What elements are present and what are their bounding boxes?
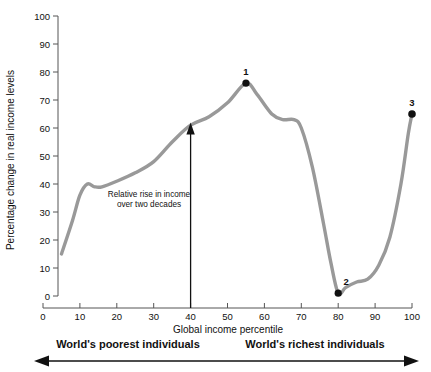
point-label-2: 2 <box>344 276 349 287</box>
y-tick-label-80: 80 <box>39 67 50 78</box>
x-tick-label-30: 30 <box>148 311 159 322</box>
point-marker-3 <box>408 110 416 118</box>
chart-figure: 100 90 80 70 60 50 40 30 20 10 0 <box>0 0 431 372</box>
income-change-curve <box>61 83 412 294</box>
range-label-poorest: World's poorest individuals <box>56 338 200 350</box>
y-tick-label-50: 50 <box>39 151 50 162</box>
y-tick-label-10: 10 <box>39 263 50 274</box>
y-tick-label-90: 90 <box>39 39 50 50</box>
y-axis-ticks <box>53 16 58 296</box>
x-tick-label-100: 100 <box>404 311 420 322</box>
y-tick-label-0: 0 <box>45 291 50 302</box>
data-point-1: 1 <box>242 66 249 87</box>
y-tick-label-70: 70 <box>39 95 50 106</box>
point-label-1: 1 <box>243 66 249 77</box>
annotation-line-2: over two decades <box>117 200 181 209</box>
relative-rise-arrow <box>186 122 194 308</box>
y-tick-label-20: 20 <box>39 235 50 246</box>
range-label-richest: World's richest individuals <box>245 338 384 350</box>
arrow-head-right <box>404 356 419 367</box>
annotation-line-1: Relative rise in income <box>108 190 191 199</box>
x-tick-label-60: 60 <box>259 311 270 322</box>
y-tick-label-100: 100 <box>34 11 50 22</box>
x-tick-label-90: 90 <box>370 311 381 322</box>
point-label-3: 3 <box>409 97 414 108</box>
elephant-curve-chart: 100 90 80 70 60 50 40 30 20 10 0 <box>0 0 431 372</box>
x-axis-title: Global income percentile <box>173 324 283 335</box>
x-tick-label-70: 70 <box>296 311 307 322</box>
x-tick-label-50: 50 <box>222 311 233 322</box>
x-tick-label-20: 20 <box>112 311 123 322</box>
data-point-3: 3 <box>408 97 416 118</box>
point-marker-2 <box>335 290 342 297</box>
x-axis-tick-labels: 0 10 20 30 40 50 60 70 80 90 100 <box>40 311 420 322</box>
x-tick-label-40: 40 <box>185 311 196 322</box>
x-tick-label-10: 10 <box>75 311 86 322</box>
y-tick-label-30: 30 <box>39 207 50 218</box>
x-axis-ticks <box>43 303 412 308</box>
y-tick-label-40: 40 <box>39 179 50 190</box>
y-axis-tick-labels: 100 90 80 70 60 50 40 30 20 10 0 <box>34 11 50 302</box>
point-marker-1 <box>242 80 249 87</box>
y-axis-title: Percentage change in real income levels <box>5 70 16 250</box>
y-tick-label-60: 60 <box>39 123 50 134</box>
range-double-arrow <box>34 356 419 367</box>
x-tick-label-80: 80 <box>333 311 344 322</box>
x-tick-label-0: 0 <box>40 311 45 322</box>
arrow-head-left <box>34 356 49 367</box>
